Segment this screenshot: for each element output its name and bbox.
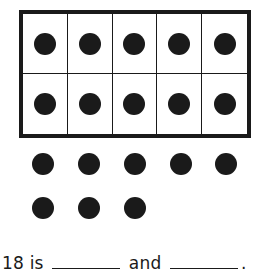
counter-dot-icon xyxy=(215,153,237,175)
ten-frame-cell xyxy=(157,74,202,134)
ten-frame-cell xyxy=(113,14,158,74)
answer-blank-ones[interactable] xyxy=(170,254,238,269)
ten-frame-cell xyxy=(202,74,247,134)
ten-frame-cell xyxy=(23,14,68,74)
counter-dot-icon xyxy=(78,153,100,175)
ten-frame-cell xyxy=(68,14,113,74)
counter-dot-icon xyxy=(168,33,190,55)
counter-dot-icon xyxy=(79,93,101,115)
answer-blank-tens[interactable] xyxy=(52,254,120,269)
sentence-period: . xyxy=(241,253,247,273)
counter-dot-icon xyxy=(79,33,101,55)
counter-dot-icon xyxy=(214,33,236,55)
counter-dot-icon xyxy=(124,153,146,175)
sentence-is: is xyxy=(30,253,44,273)
sentence-number: 18 xyxy=(2,253,24,273)
counter-dot-icon xyxy=(34,33,56,55)
counter-dot-icon xyxy=(123,33,145,55)
counter-dot-icon xyxy=(214,93,236,115)
fill-in-sentence: 18 is and . xyxy=(2,253,247,273)
ten-frame-cell xyxy=(202,14,247,74)
counter-dot-icon xyxy=(123,93,145,115)
ten-frame-cell xyxy=(68,74,113,134)
counter-dot-icon xyxy=(32,153,54,175)
counter-dot-icon xyxy=(78,197,100,219)
counter-dot-icon xyxy=(168,93,190,115)
counter-dot-icon xyxy=(32,197,54,219)
ten-frame-cell xyxy=(113,74,158,134)
ten-frame-cell xyxy=(157,14,202,74)
counter-dot-icon xyxy=(170,153,192,175)
ten-frame-cell xyxy=(23,74,68,134)
counter-dot-icon xyxy=(34,93,56,115)
counter-dot-icon xyxy=(124,197,146,219)
ten-frame-grid xyxy=(23,14,247,134)
sentence-and: and xyxy=(129,253,162,273)
ten-frame xyxy=(19,10,251,138)
